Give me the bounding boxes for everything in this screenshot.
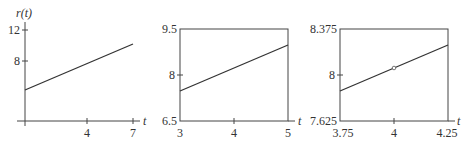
data-line <box>25 44 133 90</box>
y-tick-label: 8 <box>169 68 175 82</box>
x-axis-label: t <box>143 114 147 128</box>
panel-2 <box>177 29 295 124</box>
y-tick-label: 8 <box>329 68 335 82</box>
x-tick-label: 4.25 <box>437 126 458 140</box>
y-tick-label: 9.5 <box>162 22 177 36</box>
y-tick-label: 12 <box>8 23 20 37</box>
chart-canvas: r(t) 12 8 4 7 t 9.5 8 6.5 3 4 5 t 8.375 … <box>0 0 465 147</box>
x-axis-label: t <box>298 114 302 128</box>
x-tick-label: 7 <box>130 126 136 140</box>
point-marker <box>392 66 396 70</box>
x-tick-label: 4 <box>84 126 90 140</box>
panel-1 <box>17 22 140 126</box>
plot-frame <box>180 29 288 121</box>
x-tick-label: 3 <box>177 126 183 140</box>
y-tick-label: 6.5 <box>162 114 177 128</box>
x-tick-label: 4 <box>231 126 237 140</box>
panel-3 <box>337 29 455 124</box>
x-tick-label: 4 <box>391 126 397 140</box>
y-tick-label: 8.375 <box>310 22 337 36</box>
x-axis-label: t <box>457 114 461 128</box>
plot-frame <box>340 29 448 121</box>
data-line <box>180 45 288 91</box>
x-tick-label: 3.75 <box>333 126 354 140</box>
y-axis-label: r(t) <box>16 6 32 20</box>
x-tick-label: 5 <box>285 126 291 140</box>
y-tick-label: 8 <box>14 54 20 68</box>
